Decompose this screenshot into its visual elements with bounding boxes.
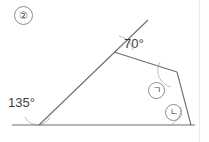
angle-label-70: 70° — [124, 36, 144, 51]
angle-symbol-giyeok: ㄱ — [148, 82, 165, 99]
problem-number: ② — [14, 6, 33, 25]
worksheet-figure-panel: ② 70° 135° ㄱ ㄴ — [0, 0, 209, 142]
panel-margin — [200, 0, 209, 142]
angle-symbol-nieun: ㄴ — [165, 104, 182, 121]
edge-upper-to-right — [114, 52, 177, 72]
angle-label-135: 135° — [8, 95, 35, 110]
geometry-figure — [0, 0, 209, 142]
